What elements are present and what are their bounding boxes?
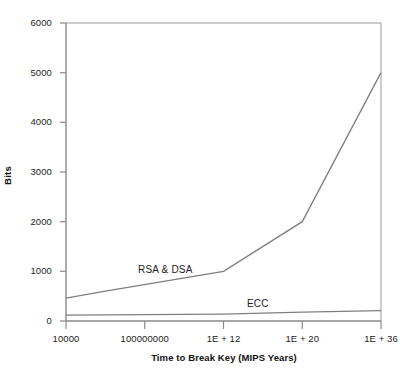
x-tick-label: 1E + 36 (336, 333, 412, 344)
x-tick-label: 1E + 12 (179, 333, 269, 344)
chart-container: 6000 5000 4000 3000 2000 1000 0 10000 10… (0, 0, 412, 373)
y-tick-label: 2000 (14, 216, 52, 227)
x-tick-label: 100000000 (100, 333, 190, 344)
y-tick-label: 1000 (14, 265, 52, 276)
x-axis-title: Time to Break Key (MIPS Years) (66, 352, 382, 363)
plot-area (0, 0, 412, 373)
y-tick-label: 0 (14, 315, 52, 326)
y-tick-label: 3000 (14, 166, 52, 177)
series-label-rsa-dsa: RSA & DSA (138, 264, 193, 275)
y-tick-label: 6000 (14, 17, 52, 28)
series-line-rsa-dsa (66, 73, 381, 298)
axis-frame (66, 23, 381, 321)
y-tick-label: 4000 (14, 116, 52, 127)
y-axis-title: Bits (2, 156, 13, 196)
series-line-ecc (66, 311, 381, 315)
x-tick-marks (66, 321, 381, 329)
y-tick-label: 5000 (14, 67, 52, 78)
series-label-ecc: ECC (247, 298, 269, 309)
y-tick-marks (60, 23, 66, 321)
x-tick-label: 10000 (21, 333, 111, 344)
x-tick-label: 1E + 20 (257, 333, 347, 344)
